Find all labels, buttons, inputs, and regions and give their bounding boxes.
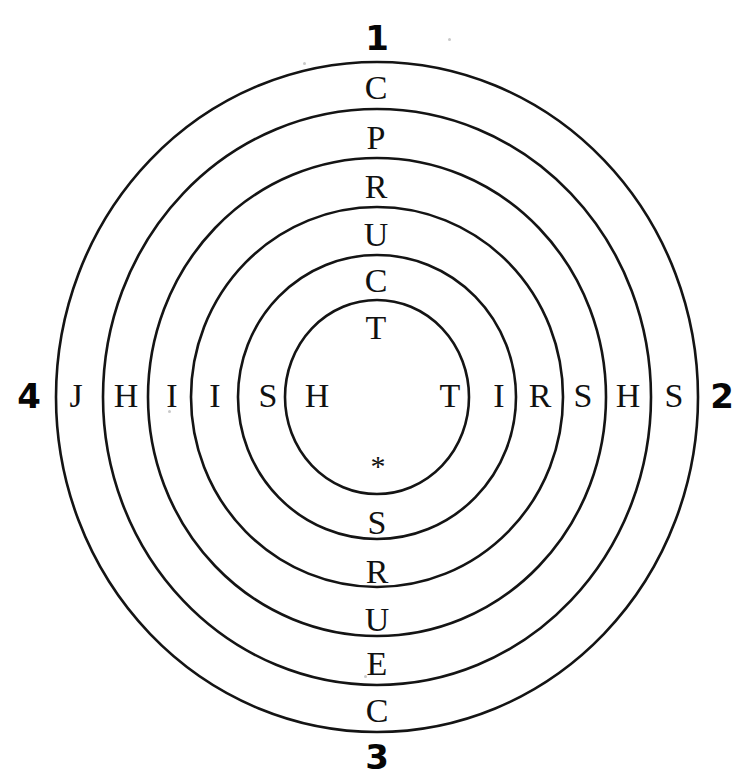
- scan-speck: [303, 62, 306, 65]
- bottom-ring-5-letter: S: [368, 506, 387, 540]
- scan-speck: [168, 410, 171, 413]
- center-star: *: [371, 451, 386, 481]
- top-ring-4-letter: U: [364, 218, 389, 252]
- right-ring-1-letter: S: [665, 379, 684, 413]
- direction-number-left: 4: [17, 379, 41, 413]
- bottom-ring-2-letter: E: [367, 647, 388, 681]
- right-ring-3-letter: S: [574, 379, 593, 413]
- right-ring-6-letter: T: [440, 379, 461, 413]
- right-ring-2-letter: H: [616, 379, 641, 413]
- top-ring-1-letter: C: [365, 71, 388, 105]
- top-ring-6-letter: T: [366, 311, 387, 345]
- left-ring-2-letter: H: [114, 379, 139, 413]
- left-ring-6-letter: H: [305, 379, 330, 413]
- scan-speck: [448, 38, 451, 41]
- bottom-ring-4-letter: R: [366, 555, 389, 589]
- left-ring-5-letter: S: [259, 379, 278, 413]
- scan-speck: [364, 675, 367, 678]
- left-ring-4-letter: I: [209, 379, 220, 413]
- top-ring-3-letter: R: [365, 170, 388, 204]
- right-ring-4-letter: R: [529, 379, 552, 413]
- direction-number-right: 2: [710, 379, 734, 413]
- top-ring-5-letter: C: [365, 264, 388, 298]
- top-ring-2-letter: P: [367, 121, 386, 155]
- direction-number-top: 1: [365, 21, 389, 55]
- bottom-ring-3-letter: U: [365, 603, 390, 637]
- right-ring-5-letter: I: [493, 379, 504, 413]
- left-ring-1-letter: J: [69, 379, 82, 413]
- puzzle-figure: C P R U C T * S R U E C J H I I S H T I …: [0, 0, 737, 781]
- bottom-ring-1-letter: C: [366, 694, 389, 728]
- left-ring-3-letter: I: [166, 379, 177, 413]
- direction-number-bottom: 3: [365, 740, 389, 774]
